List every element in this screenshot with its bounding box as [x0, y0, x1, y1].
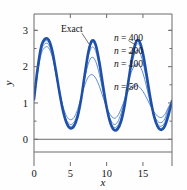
y-tick-label: 2	[23, 61, 28, 72]
x-tick-label: 5	[68, 168, 73, 179]
y-tick-label: 0	[23, 134, 28, 145]
chart-background	[0, 0, 187, 190]
annotation-n-400: n = 400	[114, 33, 143, 43]
x-tick-label: 15	[138, 168, 149, 179]
figure-container: 0123051015 Exactn = 400n = 200n = 100n =…	[0, 0, 187, 190]
y-tick-label: 3	[23, 25, 28, 36]
annotation-n-50: n = 50	[114, 82, 139, 92]
annotation-n-100: n = 100	[114, 59, 143, 69]
x-axis-title: x	[100, 176, 106, 188]
convergence-line-chart: 0123051015 Exactn = 400n = 200n = 100n =…	[0, 0, 187, 190]
x-tick-label: 0	[31, 168, 36, 179]
annotation-n-200: n = 200	[114, 46, 143, 56]
y-tick-label: 1	[23, 98, 28, 109]
y-axis-title: y	[2, 80, 14, 86]
annotation-exact: Exact	[61, 24, 83, 34]
